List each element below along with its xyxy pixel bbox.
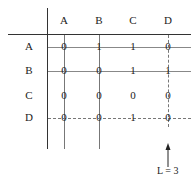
row-header-a: A — [21, 41, 37, 52]
cell-d-c: 1 — [127, 112, 139, 123]
cell-b-c: 1 — [127, 65, 139, 76]
cell-a-a: 0 — [58, 41, 70, 52]
cell-a-b: 1 — [93, 41, 105, 52]
annotation-label: L = 3 — [157, 166, 178, 176]
row-header-d: D — [21, 112, 37, 123]
cell-d-d: 0 — [162, 112, 174, 123]
column-header-a: A — [56, 15, 72, 26]
cell-b-b: 0 — [93, 65, 105, 76]
cell-a-c: 1 — [127, 41, 139, 52]
row-header-c: C — [21, 90, 37, 101]
vertical-axis — [47, 8, 48, 149]
cell-d-b: 0 — [93, 112, 105, 123]
column-header-c: C — [125, 15, 141, 26]
cell-d-a: 0 — [58, 112, 70, 123]
cell-b-a: 0 — [58, 65, 70, 76]
column-header-d: D — [160, 15, 176, 26]
column-header-b: B — [91, 15, 107, 26]
row-header-b: B — [21, 65, 37, 76]
cell-b-d: 1 — [162, 65, 174, 76]
cell-c-d: 0 — [162, 90, 174, 101]
arrow-up-icon — [163, 143, 173, 167]
cell-c-b: 0 — [93, 90, 105, 101]
cell-c-a: 0 — [58, 90, 70, 101]
cell-c-c: 0 — [127, 90, 139, 101]
cell-a-d: 0 — [162, 41, 174, 52]
